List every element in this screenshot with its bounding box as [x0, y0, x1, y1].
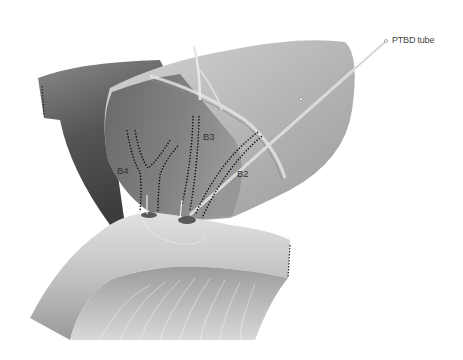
- label-b2: B2: [237, 168, 248, 179]
- jejunal-limb: [30, 212, 290, 340]
- anastomosis-b4: [141, 212, 157, 218]
- anastomosis-b2b3: [178, 216, 196, 224]
- label-ptbd-tube: PTBD tube: [392, 35, 434, 45]
- label-b3: B3: [203, 131, 214, 142]
- liver-bile-duct-illustration: [0, 0, 463, 360]
- label-b4: B4: [117, 165, 128, 176]
